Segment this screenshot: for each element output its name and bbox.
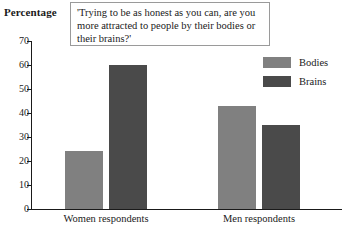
y-tick-label: 60 <box>0 59 29 70</box>
legend-item-bodies: Bodies <box>263 57 328 68</box>
x-axis-line <box>31 209 342 210</box>
bar-men-brains <box>262 125 300 209</box>
legend-swatch-bodies <box>263 57 291 68</box>
legend-label: Brains <box>299 76 326 87</box>
bar-women-bodies <box>65 151 103 209</box>
bar-chart: Percentage 'Trying to be as honest as yo… <box>0 0 346 241</box>
y-tick-label: 20 <box>0 155 29 166</box>
y-tick-label: 0 <box>0 203 29 214</box>
y-tick-label: 10 <box>0 179 29 190</box>
y-tick-label: 40 <box>0 107 29 118</box>
x-axis-group-label: Men respondents <box>223 213 295 224</box>
legend-label: Bodies <box>299 57 328 68</box>
chart-legend: BodiesBrains <box>263 57 328 95</box>
x-axis-group-label: Women respondents <box>63 213 148 224</box>
y-axis-line <box>31 41 32 209</box>
y-tick-label: 50 <box>0 83 29 94</box>
y-axis-title: Percentage <box>4 6 57 18</box>
legend-swatch-brains <box>263 76 291 87</box>
bar-women-brains <box>109 65 147 209</box>
y-tick-label: 30 <box>0 131 29 142</box>
y-tick-label: 70 <box>0 35 29 46</box>
bar-men-bodies <box>218 106 256 209</box>
legend-item-brains: Brains <box>263 76 328 87</box>
quote-text: 'Trying to be as honest as you can, are … <box>77 6 264 46</box>
quote-callout-box: 'Trying to be as honest as you can, are … <box>70 2 270 46</box>
